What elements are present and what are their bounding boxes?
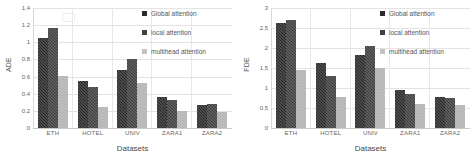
x-tick-label: HOTEL: [311, 130, 351, 136]
bar[interactable]: [98, 107, 108, 128]
bar[interactable]: [58, 76, 68, 128]
legend-ade: Global attention local attention multihe…: [142, 10, 234, 67]
bar[interactable]: [217, 112, 227, 128]
legend-swatch-icon-multihead: [142, 49, 147, 54]
bar[interactable]: [435, 97, 445, 128]
y-tick-label: 0.5: [260, 105, 268, 111]
x-tick-label: ZARA1: [152, 130, 192, 136]
x-axis-label-ade: Datasets: [33, 144, 232, 153]
legend-label-local: local attention: [389, 29, 429, 36]
bar[interactable]: [137, 83, 147, 128]
legend-swatch-icon-local: [142, 30, 147, 35]
x-axis-ticks-ade: ETHHOTELUNIVZARA1ZARA2: [33, 130, 232, 136]
legend-item-local-attention: local attention: [380, 29, 472, 36]
bar[interactable]: [415, 104, 425, 128]
y-tick-label: 2.5: [260, 25, 268, 31]
legend-item-local-attention: local attention: [142, 29, 234, 36]
axis-baseline: [33, 128, 232, 129]
legend-swatch-icon-local: [380, 30, 385, 35]
scan-artifact-mark: [62, 13, 75, 22]
bar[interactable]: [405, 94, 415, 128]
bar[interactable]: [78, 81, 88, 128]
legend-label-multihead: multihead attention: [151, 48, 206, 55]
legend-item-multihead-attention: multihead attention: [380, 48, 472, 55]
bar[interactable]: [365, 46, 375, 128]
x-axis-ticks-fde: ETHHOTELUNIVZARA1ZARA2: [271, 130, 470, 136]
bar-group: [73, 8, 113, 128]
legend-swatch-icon-multihead: [380, 49, 385, 54]
legend-fde: Global attention local attention multihe…: [380, 10, 472, 67]
bar[interactable]: [207, 104, 217, 128]
bar[interactable]: [445, 98, 455, 128]
figure-two-bar-charts: ADE 00.20.40.60.811.21.4 ETHHOTELUNIVZAR…: [0, 0, 476, 162]
legend-swatch-icon-global: [380, 11, 385, 16]
bar[interactable]: [296, 70, 306, 128]
bar[interactable]: [395, 90, 405, 128]
bar[interactable]: [316, 63, 326, 128]
bar[interactable]: [167, 100, 177, 128]
bar[interactable]: [276, 23, 286, 128]
legend-item-global-attention: Global attention: [380, 10, 472, 17]
y-tick-label: 2: [265, 45, 268, 51]
bar[interactable]: [326, 76, 336, 128]
legend-label-global: Global attention: [389, 10, 435, 17]
y-tick-label: 0.2: [22, 108, 30, 114]
legend-swatch-icon-global: [142, 11, 147, 16]
bar[interactable]: [38, 38, 48, 128]
axis-baseline: [271, 128, 470, 129]
y-tick-label: 0: [265, 125, 268, 131]
x-tick-label: ETH: [33, 130, 73, 136]
y-tick-label: 1.2: [22, 22, 30, 28]
bar[interactable]: [455, 105, 465, 128]
y-tick-label: 1: [27, 39, 30, 45]
bar[interactable]: [48, 28, 58, 128]
bar-group: [33, 8, 73, 128]
bar[interactable]: [127, 59, 137, 128]
y-axis-ticks-fde: 00.511.522.53: [250, 8, 270, 128]
legend-item-global-attention: Global attention: [142, 10, 234, 17]
legend-label-local: local attention: [151, 29, 191, 36]
y-tick-label: 0.4: [22, 91, 30, 97]
bar[interactable]: [336, 97, 346, 128]
bar[interactable]: [117, 70, 127, 128]
bar[interactable]: [197, 105, 207, 128]
y-tick-label: 0.8: [22, 56, 30, 62]
x-tick-label: ETH: [271, 130, 311, 136]
y-tick-label: 0.6: [22, 74, 30, 80]
bar-group: [311, 8, 351, 128]
x-tick-label: ZARA2: [192, 130, 232, 136]
y-tick-label: 1.4: [22, 5, 30, 11]
chart-panel-fde: FDE 00.511.522.53 ETHHOTELUNIVZARA1ZARA2…: [238, 0, 476, 162]
legend-item-multihead-attention: multihead attention: [142, 48, 234, 55]
bar[interactable]: [177, 111, 187, 128]
y-tick-label: 1: [265, 85, 268, 91]
bar[interactable]: [88, 87, 98, 128]
x-tick-label: UNIV: [351, 130, 391, 136]
legend-label-multihead: multihead attention: [389, 48, 444, 55]
y-tick-label: 3: [265, 5, 268, 11]
y-tick-label: 0: [27, 125, 30, 131]
y-tick-label: 1.5: [260, 65, 268, 71]
chart-panel-ade: ADE 00.20.40.60.811.21.4 ETHHOTELUNIVZAR…: [0, 0, 238, 162]
x-tick-label: UNIV: [113, 130, 153, 136]
x-tick-label: HOTEL: [73, 130, 113, 136]
x-tick-label: ZARA2: [430, 130, 470, 136]
bar-group: [271, 8, 311, 128]
y-axis-ticks-ade: 00.20.40.60.811.21.4: [12, 8, 32, 128]
bar[interactable]: [355, 55, 365, 128]
bar[interactable]: [375, 68, 385, 128]
legend-label-global: Global attention: [151, 10, 197, 17]
bar[interactable]: [286, 20, 296, 128]
x-axis-label-fde: Datasets: [271, 144, 470, 153]
x-tick-label: ZARA1: [390, 130, 430, 136]
bar[interactable]: [157, 97, 167, 128]
